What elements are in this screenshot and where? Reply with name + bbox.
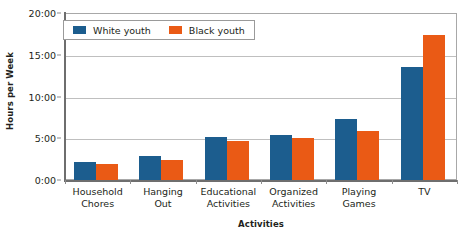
x-tick-mark [65, 180, 66, 184]
y-axis-title: Hours per Week [0, 0, 20, 182]
x-tick-label-line: Activities [261, 198, 326, 210]
bar-chart: Hours per Week 0:005:0010:0015:0020:00 H… [0, 0, 464, 244]
x-tick-mark [261, 180, 262, 184]
x-tick-label: HangingOut [130, 186, 195, 210]
bar[interactable] [423, 35, 445, 180]
x-tick-mark [392, 180, 393, 184]
x-tick-label: EducationalActivities [196, 186, 261, 210]
y-tick-label: 20:00 [29, 8, 56, 19]
bar[interactable] [139, 156, 161, 180]
legend-label: Black youth [189, 25, 245, 36]
y-axis-ticks: 0:005:0010:0015:0020:00 [18, 7, 61, 187]
bar[interactable] [335, 119, 357, 180]
bar[interactable] [161, 160, 183, 180]
y-tick-mark [57, 138, 61, 139]
x-tick-label-line: Playing [326, 186, 391, 198]
x-tick-mark [130, 180, 131, 184]
x-tick-label: TV [392, 186, 457, 198]
x-tick-mark [326, 180, 327, 184]
legend-label: White youth [93, 25, 151, 36]
x-axis-ticks: HouseholdChoresHangingOutEducationalActi… [65, 186, 457, 216]
legend-entry[interactable]: Black youth [169, 25, 245, 36]
x-tick-label-line: Out [130, 198, 195, 210]
y-tick-mark [57, 96, 61, 97]
x-axis-title: Activities [65, 219, 457, 229]
bar-group [261, 13, 326, 180]
y-tick-label: 15:00 [29, 49, 56, 60]
bar[interactable] [74, 162, 96, 180]
x-tick-label-line: Chores [65, 198, 130, 210]
y-tick-mark [57, 180, 61, 181]
bar[interactable] [227, 141, 249, 180]
x-tick-label-line: Educational [196, 186, 261, 198]
bar[interactable] [401, 67, 423, 180]
bar[interactable] [96, 164, 118, 180]
legend-entry[interactable]: White youth [73, 25, 151, 36]
bar[interactable] [292, 138, 314, 180]
x-tick-label-line: Organized [261, 186, 326, 198]
y-tick-mark [57, 54, 61, 55]
x-tick-label-line: Household [65, 186, 130, 198]
x-tick-label-line: Hanging [130, 186, 195, 198]
y-tick-label: 0:00 [35, 175, 56, 186]
bar[interactable] [205, 137, 227, 180]
legend-swatch-icon [169, 26, 182, 34]
x-tick-label: PlayingGames [326, 186, 391, 210]
y-axis-title-text: Hours per Week [5, 52, 15, 130]
x-tick-label-line: Games [326, 198, 391, 210]
y-tick-label: 10:00 [29, 91, 56, 102]
x-tick-mark [457, 180, 458, 184]
bar[interactable] [357, 131, 379, 180]
x-tick-label-line: Activities [196, 198, 261, 210]
x-tick-label: OrganizedActivities [261, 186, 326, 210]
bar-group [326, 13, 391, 180]
y-tick-mark [57, 13, 61, 14]
x-tick-label-line: TV [392, 186, 457, 198]
y-tick-label: 5:00 [35, 133, 56, 144]
x-tick-mark [196, 180, 197, 184]
x-tick-label: HouseholdChores [65, 186, 130, 210]
chart-legend: White youthBlack youth [63, 20, 255, 40]
bar-group [392, 13, 457, 180]
legend-swatch-icon [73, 26, 86, 34]
bar[interactable] [270, 135, 292, 180]
